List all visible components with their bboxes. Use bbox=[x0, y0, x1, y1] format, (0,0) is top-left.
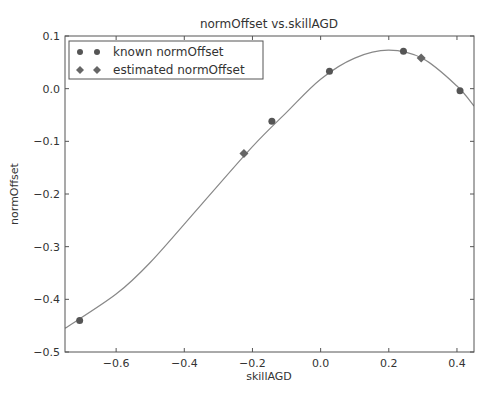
y-axis-label: normOffset bbox=[8, 162, 21, 224]
y-tick-label: −0.2 bbox=[33, 188, 60, 201]
legend-circle-marker-icon bbox=[94, 49, 100, 55]
legend: known normOffset estimated normOffset bbox=[69, 41, 263, 79]
legend-label-estimated: estimated normOffset bbox=[113, 63, 245, 77]
y-tick-label: −0.4 bbox=[33, 293, 60, 306]
known-data-point bbox=[76, 317, 83, 324]
y-tick-label: −0.3 bbox=[33, 241, 60, 254]
fit-curve bbox=[65, 50, 474, 328]
chart: normOffset vs.skillAGD −0.6−0.4−0.20.00.… bbox=[0, 0, 492, 396]
y-tick-label: −0.5 bbox=[33, 346, 60, 359]
known-data-point bbox=[457, 87, 464, 94]
x-tick-label: −0.6 bbox=[103, 357, 130, 370]
legend-circle-marker-icon bbox=[77, 49, 83, 55]
legend-label-known: known normOffset bbox=[113, 45, 224, 59]
plot-area bbox=[65, 48, 474, 329]
chart-title: normOffset vs.skillAGD bbox=[200, 17, 338, 31]
y-tick-label: 0.1 bbox=[43, 30, 61, 43]
x-tick-label: 0.4 bbox=[448, 357, 466, 370]
known-data-point bbox=[268, 118, 275, 125]
known-data-point bbox=[326, 68, 333, 75]
x-tick-label: −0.2 bbox=[239, 357, 266, 370]
axes-frame bbox=[65, 36, 474, 352]
x-axis-label: skillAGD bbox=[246, 370, 292, 383]
known-data-point bbox=[400, 48, 407, 55]
estimated-data-point bbox=[239, 149, 248, 158]
x-axis: −0.6−0.4−0.20.00.20.4 bbox=[103, 36, 466, 370]
x-tick-label: 0.2 bbox=[380, 357, 398, 370]
x-tick-label: 0.0 bbox=[312, 357, 330, 370]
y-tick-label: 0.0 bbox=[43, 83, 61, 96]
estimated-data-point bbox=[417, 54, 426, 63]
x-tick-label: −0.4 bbox=[171, 357, 198, 370]
y-tick-label: −0.1 bbox=[33, 135, 60, 148]
